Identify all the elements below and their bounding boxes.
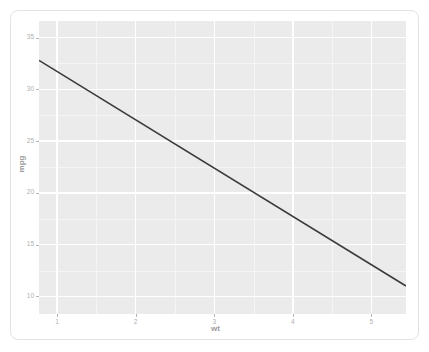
y-tick-label: 35 — [11, 34, 34, 41]
y-tick-mark — [36, 89, 39, 90]
x-tick-mark — [293, 314, 294, 317]
regression-line — [39, 60, 406, 286]
y-tick-label: 20 — [11, 189, 34, 196]
y-tick-mark — [36, 296, 39, 297]
y-tick-mark — [36, 193, 39, 194]
y-tick-label: 15 — [11, 241, 34, 248]
fit-line-layer — [39, 21, 406, 314]
y-tick-mark — [36, 245, 39, 246]
y-axis-title: mpg — [18, 144, 26, 184]
y-tick-label: 30 — [11, 86, 34, 93]
plot-panel — [39, 21, 406, 314]
x-axis-title: wt — [11, 325, 420, 333]
x-tick-mark — [136, 314, 137, 317]
y-tick-mark — [36, 38, 39, 39]
plot-card: 353025201510 12345 mpg wt — [10, 10, 419, 340]
x-tick-mark — [371, 314, 372, 317]
x-tick-mark — [214, 314, 215, 317]
y-tick-label: 10 — [11, 293, 34, 300]
y-tick-mark — [36, 141, 39, 142]
x-tick-mark — [57, 314, 58, 317]
